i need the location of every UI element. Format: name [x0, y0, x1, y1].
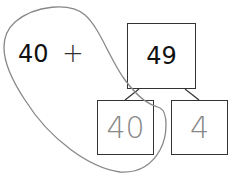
bond-line-right [185, 89, 199, 100]
drawing-layer [0, 0, 247, 186]
number-bond-worksheet: 40 + 49 40 4 [0, 0, 247, 186]
hand-drawn-loop [4, 7, 166, 172]
